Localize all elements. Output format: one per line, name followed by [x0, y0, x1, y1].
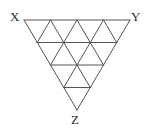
triangle-lattice-diagram: X Y Z: [0, 0, 147, 132]
lattice-line-group: [24, 20, 130, 110]
vertex-label-z: Z: [71, 113, 79, 126]
lattice-right-parallel-1: [64, 20, 104, 88]
vertex-label-x: X: [10, 10, 19, 23]
lattice-left-parallel-1: [51, 20, 91, 88]
lattice-right-parallel-3: [37, 20, 50, 43]
vertex-label-y: Y: [131, 10, 140, 23]
lattice-left-parallel-3: [104, 20, 117, 43]
